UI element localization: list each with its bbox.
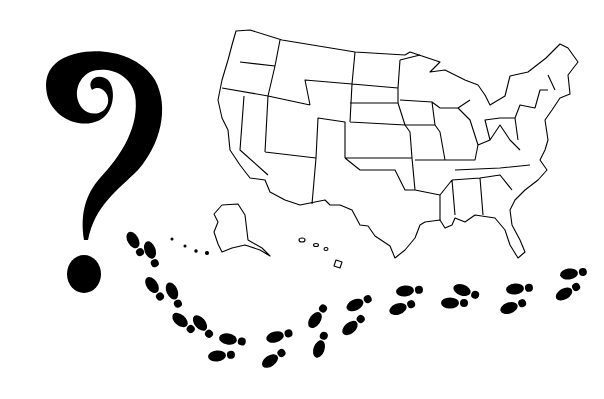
illustration-canvas: Question mark beside an outline map of t… <box>0 0 604 399</box>
usa-map-outline-icon <box>171 30 578 268</box>
question-mark-icon <box>46 51 162 293</box>
